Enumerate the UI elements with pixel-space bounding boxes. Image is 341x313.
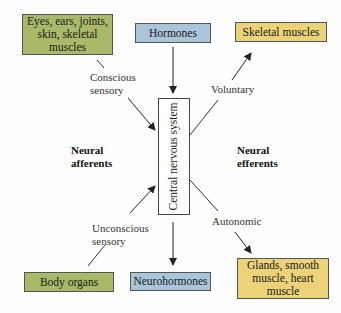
skeletal-muscles-label: Skeletal muscles (243, 26, 320, 39)
neurohormones-box: Neurohormones (130, 272, 211, 291)
cns-diagram: Eyes, ears, joints, skin, skeletal muscl… (0, 0, 341, 313)
glands-box: Glands, smooth muscle, heart muscle (237, 258, 329, 299)
eyes-ears-joints-label: Eyes, ears, joints, skin, skeletal muscl… (23, 15, 112, 54)
voluntary-label: Voluntary (211, 83, 254, 96)
conscious-sensory-label: Conscious sensory (90, 71, 150, 97)
neural-afferents-label: Neural afferents (71, 144, 121, 170)
skeletal-muscles-box: Skeletal muscles (235, 22, 327, 42)
glands-label: Glands, smooth muscle, heart muscle (238, 259, 328, 298)
autonomic-label: Autonomic (212, 215, 262, 228)
unconscious-sensory-label: Unconscious sensory (92, 222, 162, 248)
hormones-label: Hormones (149, 27, 197, 40)
central-nervous-system-box: Central nervous system (158, 98, 190, 215)
neural-efferents-label: Neural efferents (237, 144, 287, 170)
eyes-ears-joints-box: Eyes, ears, joints, skin, skeletal muscl… (22, 14, 113, 55)
neurohormones-label: Neurohormones (133, 275, 207, 288)
body-organs-label: Body organs (40, 276, 98, 289)
central-nervous-system-label: Central nervous system (168, 103, 181, 211)
body-organs-box: Body organs (24, 272, 114, 292)
hormones-box: Hormones (135, 23, 211, 43)
